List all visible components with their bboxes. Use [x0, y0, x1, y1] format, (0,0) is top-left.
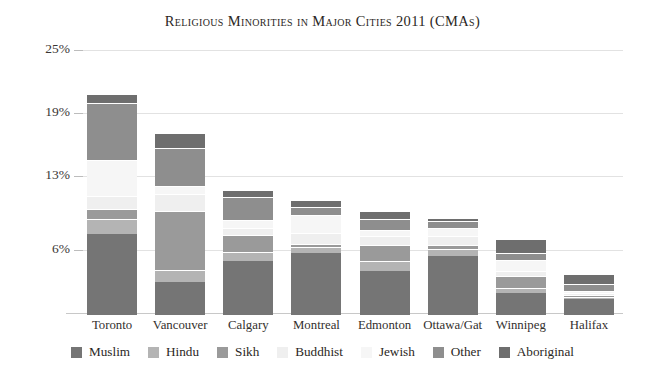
- bar-segment-muslim[interactable]: [87, 234, 137, 315]
- bar-segment-jewish[interactable]: [428, 228, 478, 236]
- bar-segment-sikh[interactable]: [496, 276, 546, 288]
- legend-label: Muslim: [89, 344, 130, 360]
- bar-segment-jewish[interactable]: [496, 260, 546, 271]
- bar-segment-buddhist[interactable]: [428, 236, 478, 244]
- y-axis-tick-mark: [74, 50, 83, 51]
- bar-segment-hindu[interactable]: [360, 261, 410, 270]
- legend-item-jewish[interactable]: Jewish: [361, 344, 415, 360]
- bar-segment-muslim[interactable]: [428, 256, 478, 315]
- legend-label: Hindu: [166, 344, 199, 360]
- bar-segment-jewish[interactable]: [223, 220, 273, 227]
- bar-segment-jewish[interactable]: [155, 186, 205, 194]
- legend-swatch-icon: [433, 347, 444, 358]
- x-axis-label-ottawa-gat: Ottawa/Gat: [419, 318, 487, 333]
- bar-segment-sikh[interactable]: [155, 211, 205, 270]
- bar-halifax[interactable]: [564, 42, 614, 315]
- bars-group: [78, 40, 623, 315]
- bar-montreal[interactable]: [291, 42, 341, 315]
- legend-item-hindu[interactable]: Hindu: [148, 344, 199, 360]
- bar-edmonton[interactable]: [360, 42, 410, 315]
- bar-segment-muslim[interactable]: [564, 299, 614, 315]
- chart-container: Religious Minorities in Major Cities 201…: [0, 0, 645, 390]
- x-axis-label-edmonton: Edmonton: [351, 318, 419, 333]
- bar-segment-muslim[interactable]: [223, 261, 273, 315]
- y-axis-tick-mark: [74, 250, 83, 251]
- legend-item-aboriginal[interactable]: Aboriginal: [499, 344, 574, 360]
- bar-segment-hindu[interactable]: [428, 249, 478, 256]
- legend-label: Aboriginal: [517, 344, 574, 360]
- plot-area: [78, 40, 623, 315]
- bar-segment-sikh[interactable]: [360, 245, 410, 262]
- x-axis-label-calgary: Calgary: [214, 318, 282, 333]
- chart-title: Religious Minorities in Major Cities 201…: [0, 13, 645, 30]
- bar-segment-other[interactable]: [223, 197, 273, 220]
- legend-item-sikh[interactable]: Sikh: [217, 344, 259, 360]
- x-axis-labels: TorontoVancouverCalgaryMontrealEdmontonO…: [78, 318, 623, 338]
- bar-segment-buddhist[interactable]: [223, 228, 273, 235]
- bar-toronto[interactable]: [87, 42, 137, 315]
- bar-segment-hindu[interactable]: [223, 252, 273, 261]
- legend-swatch-icon: [148, 347, 159, 358]
- bar-segment-aboriginal[interactable]: [360, 211, 410, 219]
- bar-segment-buddhist[interactable]: [155, 194, 205, 211]
- bar-segment-hindu[interactable]: [155, 270, 205, 283]
- y-axis-tick-label: 25%: [12, 41, 70, 57]
- legend-item-muslim[interactable]: Muslim: [71, 344, 130, 360]
- bar-winnipeg[interactable]: [496, 42, 546, 315]
- legend-label: Jewish: [379, 344, 415, 360]
- x-axis-label-vancouver: Vancouver: [146, 318, 214, 333]
- y-axis-tick-label: 13%: [12, 167, 70, 183]
- bar-segment-other[interactable]: [360, 219, 410, 230]
- y-axis-tick-label: 6%: [12, 241, 70, 257]
- bar-segment-muslim[interactable]: [360, 271, 410, 315]
- bar-segment-other[interactable]: [496, 253, 546, 260]
- bar-calgary[interactable]: [223, 42, 273, 315]
- bar-segment-other[interactable]: [291, 207, 341, 215]
- legend-swatch-icon: [499, 347, 510, 358]
- legend-item-buddhist[interactable]: Buddhist: [277, 344, 343, 360]
- y-axis-tick-mark: [74, 113, 83, 114]
- bar-segment-sikh[interactable]: [87, 209, 137, 220]
- x-axis-label-halifax: Halifax: [555, 318, 623, 333]
- x-axis-label-toronto: Toronto: [78, 318, 146, 333]
- bar-segment-aboriginal[interactable]: [155, 133, 205, 148]
- bar-segment-hindu[interactable]: [87, 219, 137, 234]
- bar-segment-aboriginal[interactable]: [496, 239, 546, 253]
- bar-segment-buddhist[interactable]: [291, 233, 341, 244]
- legend-label: Other: [451, 344, 481, 360]
- bar-segment-aboriginal[interactable]: [87, 94, 137, 102]
- y-axis-tick-mark: [74, 176, 83, 177]
- bar-segment-buddhist[interactable]: [360, 236, 410, 244]
- bar-segment-other[interactable]: [87, 103, 137, 161]
- chart-legend: MuslimHinduSikhBuddhistJewishOtherAborig…: [0, 344, 645, 360]
- bar-segment-jewish[interactable]: [87, 160, 137, 196]
- bar-segment-buddhist[interactable]: [87, 196, 137, 209]
- bar-segment-muslim[interactable]: [291, 253, 341, 315]
- legend-swatch-icon: [361, 347, 372, 358]
- bar-segment-aboriginal[interactable]: [564, 274, 614, 283]
- legend-label: Sikh: [235, 344, 259, 360]
- bar-ottawa-gat[interactable]: [428, 42, 478, 315]
- legend-swatch-icon: [71, 347, 82, 358]
- bar-segment-sikh[interactable]: [223, 235, 273, 252]
- legend-swatch-icon: [217, 347, 228, 358]
- y-axis-tick-label: 19%: [12, 104, 70, 120]
- legend-label: Buddhist: [295, 344, 343, 360]
- bar-segment-muslim[interactable]: [496, 293, 546, 315]
- bar-segment-aboriginal[interactable]: [223, 190, 273, 197]
- bar-segment-other[interactable]: [155, 148, 205, 186]
- bar-vancouver[interactable]: [155, 42, 205, 315]
- legend-item-other[interactable]: Other: [433, 344, 481, 360]
- bar-segment-muslim[interactable]: [155, 282, 205, 315]
- bar-segment-jewish[interactable]: [291, 215, 341, 233]
- bar-segment-other[interactable]: [564, 284, 614, 291]
- legend-swatch-icon: [277, 347, 288, 358]
- x-axis-label-winnipeg: Winnipeg: [487, 318, 555, 333]
- x-axis-label-montreal: Montreal: [282, 318, 350, 333]
